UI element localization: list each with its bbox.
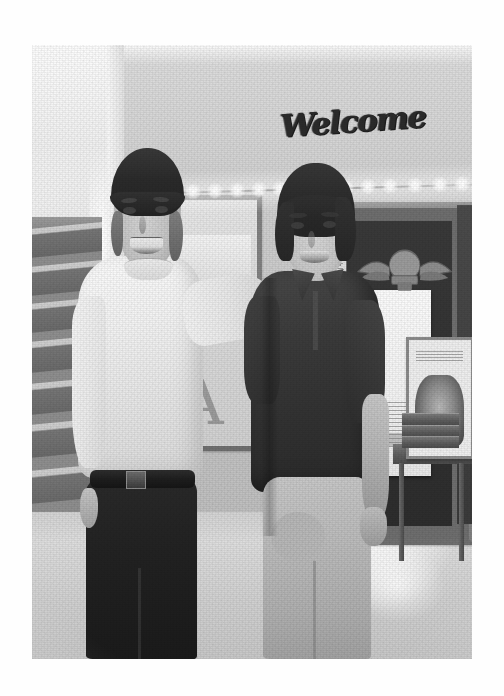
- left-person-smile: [130, 237, 162, 254]
- table-leg: [459, 463, 464, 561]
- left-person-hair-right: [169, 211, 183, 261]
- light-bulb-icon: [453, 176, 469, 192]
- right-person-shorts: [263, 477, 371, 659]
- right-person-shirt-placket: [313, 291, 318, 350]
- left-person-trouser-seam: [138, 568, 141, 659]
- right-person-eye: [323, 221, 336, 228]
- right-person-nose: [308, 231, 315, 248]
- right-person-shorts-seam: [313, 561, 316, 659]
- left-person-collar: [124, 258, 173, 280]
- left-person-trousers: [86, 478, 197, 659]
- left-person-belt-buckle: [126, 471, 146, 489]
- right-person-shorts-fold: [271, 512, 325, 561]
- right-person-eye: [291, 222, 304, 229]
- left-person-left-arm: [72, 296, 106, 467]
- between-figures-shadow: [261, 278, 279, 536]
- scanned-page: Welcome A: [0, 0, 504, 696]
- left-person-hair-left: [111, 211, 123, 256]
- right-person-right-arm: [362, 394, 389, 522]
- right-person-right-hand: [360, 507, 387, 546]
- photograph: Welcome A: [32, 45, 472, 659]
- left-person-left-hand: [80, 488, 98, 528]
